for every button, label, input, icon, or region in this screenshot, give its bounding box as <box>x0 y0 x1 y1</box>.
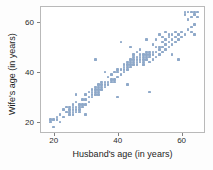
data-point <box>139 58 142 61</box>
data-point <box>168 33 171 36</box>
y-axis-tick <box>37 22 40 23</box>
data-point <box>148 91 151 94</box>
data-point <box>168 41 171 44</box>
data-point <box>91 96 94 99</box>
data-point <box>190 16 193 19</box>
data-point <box>164 31 167 34</box>
data-point <box>129 66 132 69</box>
data-point <box>152 43 155 46</box>
data-point <box>174 41 177 44</box>
data-point <box>171 33 174 36</box>
data-point <box>193 33 196 36</box>
data-point <box>97 83 100 86</box>
data-point <box>187 18 190 21</box>
y-axis-tick <box>37 122 40 123</box>
data-point <box>161 36 164 39</box>
data-point <box>84 103 87 106</box>
data-point <box>97 86 100 89</box>
data-point <box>72 103 75 106</box>
data-point <box>107 83 110 86</box>
data-point <box>184 33 187 36</box>
data-point <box>132 56 135 59</box>
data-point <box>120 68 123 71</box>
data-point <box>145 51 148 54</box>
data-point <box>148 51 151 54</box>
data-point <box>155 38 158 41</box>
data-point <box>110 81 113 84</box>
data-point <box>84 98 87 101</box>
data-point <box>81 98 84 101</box>
data-point <box>164 43 167 46</box>
data-point <box>161 41 164 44</box>
data-point <box>193 23 196 26</box>
data-point <box>104 86 107 89</box>
data-point <box>97 93 100 96</box>
data-point <box>126 83 129 86</box>
x-axis-tick-label: 40 <box>113 136 122 145</box>
data-point <box>81 106 84 109</box>
data-point <box>164 38 167 41</box>
data-point <box>88 91 91 94</box>
data-point <box>168 46 171 49</box>
data-point <box>68 106 71 109</box>
data-point <box>75 101 78 104</box>
data-point <box>132 61 135 64</box>
data-point <box>49 121 52 124</box>
data-point <box>75 108 78 111</box>
y-axis-tick-label: 20 <box>20 118 34 127</box>
data-point <box>180 31 183 34</box>
data-point <box>190 11 193 14</box>
data-point <box>110 78 113 81</box>
y-axis-title: Wife's age (in years) <box>7 9 17 139</box>
plot-area <box>41 7 204 132</box>
data-point <box>116 68 119 71</box>
data-point <box>158 53 161 56</box>
data-point <box>75 93 78 96</box>
x-axis-tick-label: 20 <box>49 136 58 145</box>
data-point <box>145 53 148 56</box>
data-point <box>145 56 148 59</box>
data-point <box>68 113 71 116</box>
data-point <box>177 38 180 41</box>
data-point <box>190 31 193 34</box>
scatter-plot-figure: 204060204060 Husband's age (in years) Wi… <box>0 0 213 170</box>
y-axis-tick-label: 40 <box>20 68 34 77</box>
data-point <box>120 41 123 44</box>
data-point <box>52 126 55 129</box>
data-point <box>104 83 107 86</box>
data-point <box>171 43 174 46</box>
data-point <box>136 58 139 61</box>
data-point <box>136 51 139 54</box>
data-point <box>59 121 62 124</box>
data-point <box>123 71 126 74</box>
x-axis-title: Husband's age (in years) <box>40 149 205 159</box>
data-point <box>129 46 132 49</box>
data-point <box>126 63 129 66</box>
data-point <box>187 11 190 14</box>
data-point <box>190 26 193 29</box>
data-point <box>152 53 155 56</box>
data-point <box>126 68 129 71</box>
data-point <box>139 53 142 56</box>
data-point <box>116 71 119 74</box>
data-point <box>100 86 103 89</box>
data-point <box>91 88 94 91</box>
data-point <box>113 81 116 84</box>
data-point <box>132 58 135 61</box>
data-point <box>100 83 103 86</box>
data-point <box>110 73 113 76</box>
data-point <box>171 53 174 56</box>
data-point <box>148 56 151 59</box>
data-point <box>174 31 177 34</box>
data-point <box>145 58 148 61</box>
data-point <box>72 108 75 111</box>
data-point <box>196 11 199 14</box>
y-axis-tick-label: 60 <box>20 18 34 27</box>
data-point <box>180 36 183 39</box>
data-point <box>184 11 187 14</box>
data-point <box>100 88 103 91</box>
data-point <box>88 96 91 99</box>
data-point <box>139 48 142 51</box>
data-point <box>177 58 180 61</box>
data-point <box>171 38 174 41</box>
